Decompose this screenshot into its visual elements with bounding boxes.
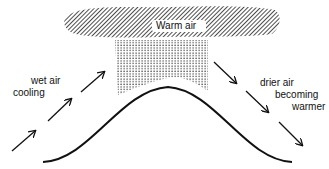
cooling-label: cooling <box>13 87 45 98</box>
descending-arrows <box>214 62 302 145</box>
warmer-label: warmer <box>292 101 325 112</box>
drier-air-label: drier air <box>260 77 294 88</box>
becoming-label: becoming <box>275 89 318 100</box>
warm-air-label: Warm air <box>156 20 196 31</box>
wet-air-label: wet air <box>31 75 60 86</box>
mountain-curve <box>43 87 292 162</box>
rain-region <box>115 40 208 95</box>
